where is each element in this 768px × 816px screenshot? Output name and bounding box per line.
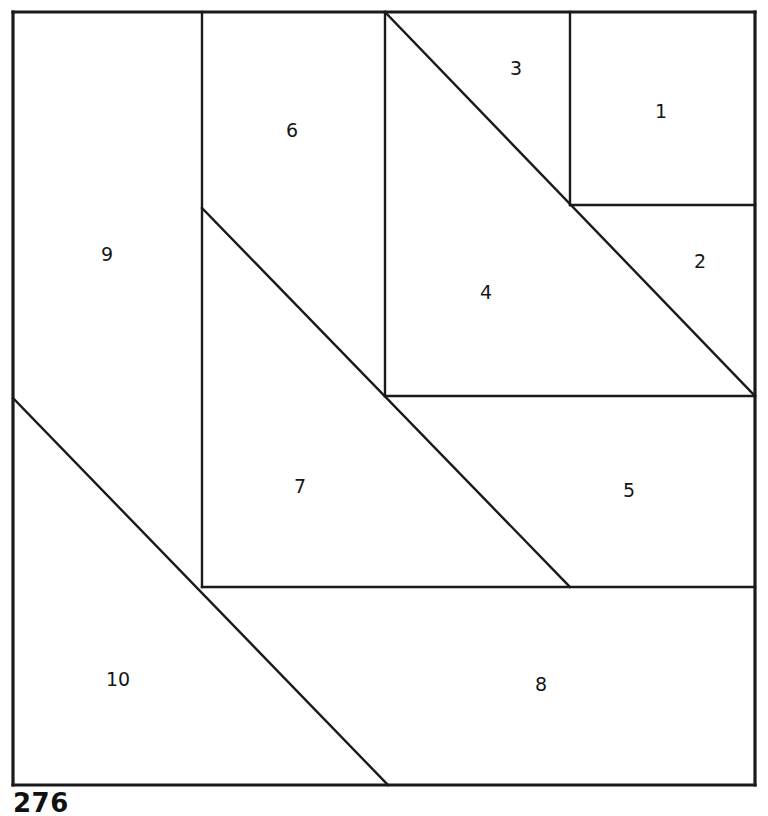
region-label-4: 4 — [480, 281, 492, 303]
region-label-5: 5 — [623, 479, 635, 501]
region-label-2: 2 — [694, 250, 706, 272]
region-label-7: 7 — [294, 475, 306, 497]
region-label-10: 10 — [106, 668, 130, 690]
region-label-9: 9 — [101, 243, 113, 265]
region-label-6: 6 — [286, 119, 298, 141]
region-label-8: 8 — [535, 673, 547, 695]
page-number-caption: 276 — [13, 790, 69, 816]
region-label-3: 3 — [510, 57, 522, 79]
region-label-1: 1 — [655, 100, 667, 122]
